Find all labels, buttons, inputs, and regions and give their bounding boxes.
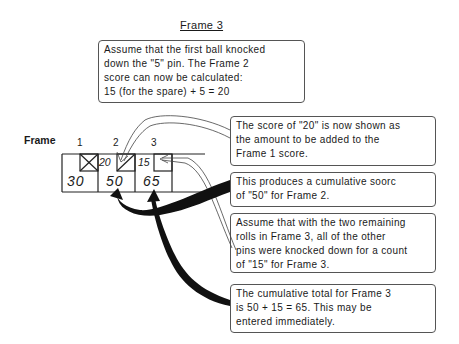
frame-3-total: 65 [143, 173, 161, 189]
frame-3-box-value: 15 [138, 156, 150, 168]
scoresheet-and-arrows [0, 0, 459, 344]
arrow-cumulative-50 [110, 180, 230, 216]
frame-1-total: 30 [67, 173, 85, 189]
frame-2-total: 50 [106, 173, 124, 189]
frame-2-box-value: 20 [99, 156, 111, 168]
